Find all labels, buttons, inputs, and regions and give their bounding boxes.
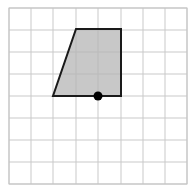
geometry-canvas bbox=[0, 0, 191, 188]
geometry-figure bbox=[0, 0, 191, 188]
marked-point bbox=[94, 92, 103, 101]
